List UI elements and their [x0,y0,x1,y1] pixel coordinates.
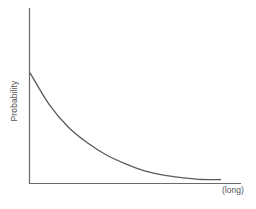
y-axis-label: Probability [9,81,19,122]
chart-canvas [0,0,256,209]
x-axis-label: (long) [222,185,244,195]
probability-curve [30,73,221,180]
